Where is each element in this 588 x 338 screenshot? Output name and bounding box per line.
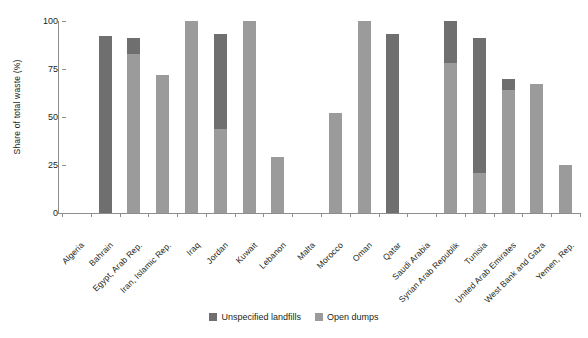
x-axis-tick-mark: [292, 213, 293, 217]
bar: [214, 34, 227, 213]
x-axis-tick-mark: [551, 213, 552, 217]
y-axis-label: Share of total waste (%): [10, 0, 24, 213]
x-axis-tick-label: Qatar: [381, 240, 403, 262]
chart-figure: Share of total waste (%) 0255075100 Alge…: [0, 0, 588, 338]
x-axis-tick-mark: [436, 213, 437, 217]
bar: [386, 34, 399, 213]
x-axis-tick-label: Bahrain: [87, 240, 115, 268]
bar-segment-open-dumps: [358, 21, 371, 213]
bar-segment-open-dumps: [127, 54, 140, 213]
x-axis-tick-mark: [321, 213, 322, 217]
y-axis-tick-mark: [62, 117, 66, 118]
bar-segment-open-dumps: [185, 21, 198, 213]
x-axis-tick-mark: [580, 213, 581, 217]
x-axis-tick-label: Jordan: [205, 240, 231, 266]
bar-segment-unspecified-landfills: [473, 38, 486, 172]
bar-segment-unspecified-landfills: [127, 38, 140, 53]
bar-segment-unspecified-landfills: [99, 36, 112, 213]
bar: [559, 165, 572, 213]
bar-segment-open-dumps: [559, 165, 572, 213]
bar-segment-unspecified-landfills: [214, 34, 227, 128]
legend-item: Open dumps: [315, 312, 379, 322]
bar: [127, 38, 140, 213]
bar: [185, 21, 198, 213]
bar-segment-unspecified-landfills: [444, 21, 457, 63]
bar-segment-open-dumps: [243, 21, 256, 213]
bar: [243, 21, 256, 213]
legend-item: Unspecified landfills: [209, 312, 301, 322]
legend-label: Unspecified landfills: [221, 312, 301, 322]
bar: [329, 113, 342, 213]
x-axis-tick-mark: [177, 213, 178, 217]
bar: [444, 21, 457, 213]
y-axis-tick-mark: [62, 21, 66, 22]
bar: [502, 79, 515, 213]
y-axis-tick-label: 25: [48, 160, 62, 170]
bar: [271, 157, 284, 213]
bar-segment-open-dumps: [271, 157, 284, 213]
y-axis-tick-label: 50: [48, 112, 62, 122]
y-axis-label-text: Share of total waste (%): [12, 59, 22, 154]
x-axis-tick-mark: [148, 213, 149, 217]
x-axis-tick-label: Oman: [351, 240, 375, 264]
x-axis-tick-mark: [91, 213, 92, 217]
plot-area: 0255075100 AlgeriaBahrainEgypt, Arab Rep…: [62, 21, 580, 213]
x-axis-tick-label: Kuwait: [234, 240, 259, 265]
bar-segment-open-dumps: [156, 75, 169, 213]
legend-swatch: [209, 313, 217, 321]
legend-label: Open dumps: [327, 312, 379, 322]
x-axis-tick-label: Iran, Islamic Rep.: [118, 240, 173, 295]
bar-segment-unspecified-landfills: [386, 34, 399, 213]
bar-segment-open-dumps: [530, 84, 543, 213]
x-axis-tick-label: Algeria: [60, 240, 86, 266]
x-axis-tick-mark: [465, 213, 466, 217]
y-axis-tick-mark: [62, 69, 66, 70]
x-axis-tick-label: Iraq: [184, 240, 202, 258]
x-axis-tick-label: Morocco: [315, 240, 346, 271]
bar: [530, 84, 543, 213]
y-axis-tick-label: 75: [48, 64, 62, 74]
x-axis-tick-mark: [522, 213, 523, 217]
x-axis-tick-mark: [379, 213, 380, 217]
x-axis-tick-mark: [407, 213, 408, 217]
x-axis-tick-mark: [350, 213, 351, 217]
x-axis-tick-mark: [206, 213, 207, 217]
x-axis-tick-mark: [235, 213, 236, 217]
bar: [156, 75, 169, 213]
y-axis-tick-label: 100: [43, 16, 62, 26]
y-axis-tick-label: 0: [53, 208, 62, 218]
bar: [473, 38, 486, 213]
bar: [358, 21, 371, 213]
bar: [99, 36, 112, 213]
chart-legend: Unspecified landfillsOpen dumps: [0, 312, 588, 322]
x-axis-tick-label: Lebanon: [257, 240, 288, 271]
x-axis-tick-mark: [62, 213, 63, 217]
bar-segment-open-dumps: [329, 113, 342, 213]
x-axis-tick-label: Tunisia: [463, 240, 490, 267]
bar-segment-open-dumps: [502, 90, 515, 213]
bar-segment-open-dumps: [444, 63, 457, 213]
bar-segment-open-dumps: [214, 129, 227, 213]
legend-swatch: [315, 313, 323, 321]
y-axis-tick-mark: [62, 165, 66, 166]
x-axis-tick-mark: [263, 213, 264, 217]
bar-segment-open-dumps: [473, 173, 486, 213]
x-axis-line: [58, 213, 580, 214]
bar-segment-unspecified-landfills: [502, 79, 515, 91]
x-axis-tick-mark: [120, 213, 121, 217]
x-axis-tick-label: Malta: [295, 240, 317, 262]
x-axis-tick-mark: [494, 213, 495, 217]
